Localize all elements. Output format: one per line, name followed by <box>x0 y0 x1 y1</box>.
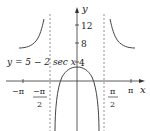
y-axis-arrow-icon <box>75 7 79 13</box>
function-label: y = 5 − 2 sec x <box>6 57 76 67</box>
x-tick-label-pi: π <box>128 86 133 95</box>
x-tick-label-pi-over-2-den: 2 <box>110 100 115 109</box>
secant-graph: y x 12 8 4 y = 5 − 2 sec x −π −π 2 π 2 π <box>0 0 150 131</box>
y-tick-label-8: 8 <box>81 39 87 49</box>
x-tick-label-neg-pi-over-2-num: −π <box>33 87 45 96</box>
y-tick-label-4: 4 <box>79 58 85 68</box>
x-axis-label: x <box>140 84 146 95</box>
x-axis-arrow-icon <box>139 79 145 83</box>
x-tick-label-neg-pi: −π <box>12 87 24 96</box>
curve-left-branch <box>19 19 44 48</box>
x-tick-label-neg-pi-over-2-den: 2 <box>37 100 42 109</box>
x-tick-label-pi-over-2-num: π <box>110 87 115 96</box>
curve-right-branch <box>110 19 135 48</box>
y-tick-label-12: 12 <box>81 21 92 31</box>
y-axis-label: y <box>81 3 88 14</box>
